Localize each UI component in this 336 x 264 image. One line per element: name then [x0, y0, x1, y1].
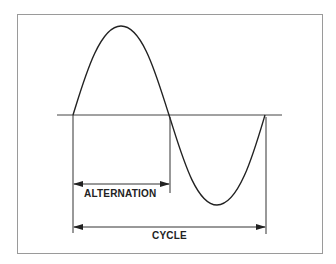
- cycle-label: CYCLE: [152, 231, 187, 241]
- sine-wave-diagram: [0, 0, 336, 264]
- alternation-label: ALTERNATION: [84, 189, 156, 199]
